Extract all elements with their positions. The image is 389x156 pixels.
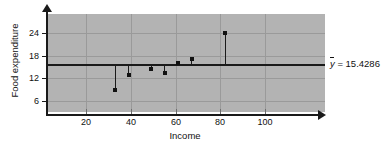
data-point [163,71,167,75]
y-axis-title: Food expenditure [9,14,20,108]
x-tick-label-60: 60 [164,117,188,127]
data-point [149,67,153,71]
gridline-x-40 [131,14,132,112]
chart-figure: 24 18 12 6 20 40 60 80 100 Food expendit… [0,0,389,156]
x-tick-label-20: 20 [74,117,98,127]
data-point [223,31,227,35]
mean-line-label: y = 15.4286 [330,58,380,69]
x-tick-40 [131,109,132,114]
x-tick-label-100: 100 [253,117,277,127]
data-point [190,57,194,61]
mean-line-value: = 15.4286 [337,58,380,69]
gridline-x-100 [265,14,266,112]
x-axis-title: Income [150,130,220,141]
gridline-y-12 [47,78,325,79]
y-tick-12 [42,78,47,79]
y-tick-label-12: 12 [17,73,39,83]
x-axis-arrow-icon [318,110,326,120]
gridline-y-6 [47,101,325,102]
gridline-x-20 [86,14,87,112]
gridline-x-80 [220,14,221,112]
y-tick-label-24: 24 [17,28,39,38]
data-point [176,61,180,65]
plot-area [47,14,325,112]
y-tick-6 [42,101,47,102]
y-tick-18 [42,56,47,57]
y-tick-24 [42,33,47,34]
y-bar-symbol: y [330,58,335,69]
y-axis-arrow-icon [42,4,52,12]
x-axis-line [46,114,322,116]
x-tick-60 [176,109,177,114]
residual-stem [115,65,116,89]
x-tick-20 [86,109,87,114]
x-tick-100 [265,109,266,114]
x-tick-label-40: 40 [119,117,143,127]
mean-line [47,64,325,66]
gridline-y-24 [47,33,325,34]
gridline-y-18 [47,56,325,57]
y-tick-label-6: 6 [17,96,39,106]
residual-stem [225,33,226,65]
data-point [127,73,131,77]
x-tick-80 [220,109,221,114]
data-point [113,88,117,92]
x-tick-label-80: 80 [208,117,232,127]
y-tick-label-18: 18 [17,51,39,61]
